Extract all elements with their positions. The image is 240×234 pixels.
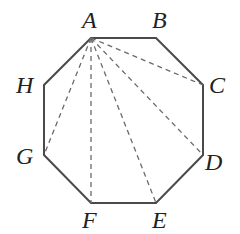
vertex-label-A: A [80,7,97,33]
octagon-figure: ABCDEFGH [0,0,240,234]
vertex-label-D: D [204,149,222,175]
vertex-label-C: C [209,72,226,98]
diagonal-AD [91,38,203,155]
vertex-labels: ABCDEFGH [15,7,226,233]
vertex-label-E: E [151,207,167,233]
vertex-label-B: B [152,7,167,33]
diagonal-AC [91,38,203,85]
octagon-outline [44,38,203,203]
vertex-label-G: G [16,143,33,169]
vertex-label-H: H [15,72,35,98]
vertex-label-F: F [81,207,97,233]
diagonal-AG [44,38,91,155]
diagonal-AE [91,38,156,203]
octagon-diagram: ABCDEFGH [0,0,240,234]
